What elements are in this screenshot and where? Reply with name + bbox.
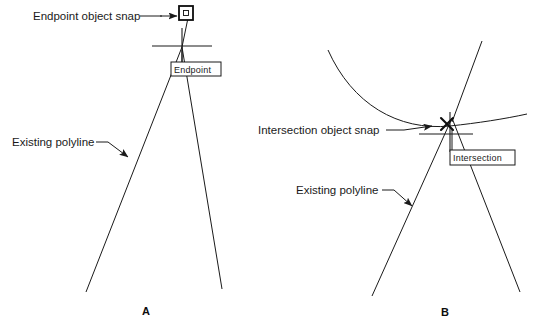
panel-a: Endpoint Endpoint object snap Existing p… — [12, 6, 222, 317]
object-snap-figure: Endpoint Endpoint object snap Existing p… — [0, 0, 553, 328]
polyline-left-leg — [86, 47, 182, 292]
tooltip-intersection: Intersection — [450, 150, 515, 165]
tooltip-endpoint: Endpoint — [171, 62, 221, 76]
arc-object — [328, 50, 527, 127]
leader-existing-polyline-b — [382, 190, 412, 206]
annotation-endpoint-object-snap: Endpoint object snap — [33, 10, 140, 22]
annotation-existing-polyline-a: Existing polyline — [12, 136, 94, 148]
polyline-vertex-stub — [182, 18, 188, 47]
annotation-existing-polyline-b: Existing polyline — [296, 184, 378, 196]
panel-b: Intersection Intersection object snap Ex… — [258, 41, 527, 318]
endpoint-marker — [179, 6, 193, 20]
polyline-upper-leg — [452, 41, 482, 122]
polyline-right-leg — [182, 47, 222, 289]
tooltip-endpoint-label: Endpoint — [174, 65, 211, 75]
figure-canvas: Endpoint Endpoint object snap Existing p… — [0, 0, 553, 328]
tooltip-intersection-label: Intersection — [453, 153, 502, 163]
panel-a-polyline — [86, 47, 222, 292]
polyline-right-leg — [452, 118, 520, 292]
leader-intersection-object-snap — [386, 126, 432, 130]
leader-existing-polyline-a — [96, 142, 128, 157]
caption-a: A — [142, 305, 150, 317]
panel-b-polyline — [372, 118, 520, 296]
caption-b: B — [441, 306, 449, 318]
polyline-left-leg — [372, 118, 452, 296]
annotation-intersection-object-snap: Intersection object snap — [258, 124, 379, 136]
